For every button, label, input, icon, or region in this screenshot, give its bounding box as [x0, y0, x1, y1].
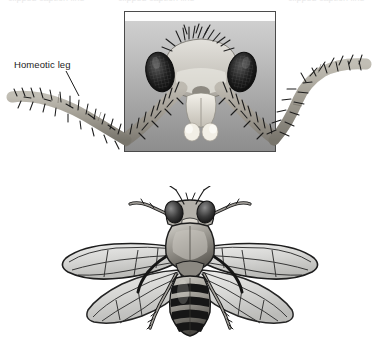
leader-line-homeotic-leg [66, 71, 79, 96]
homeotic-leg-left-distal [12, 88, 126, 149]
annotation-label-homeotic-leg: Homeotic leg [14, 59, 71, 70]
homeotic-legs-outside-panel [0, 0, 376, 180]
bithorax-fly-artwork [52, 186, 328, 342]
bithorax-fly-panel [52, 186, 328, 342]
fly-abdomen [170, 276, 211, 336]
figure-root: clipped caption line clipped caption lin… [0, 0, 376, 344]
homeotic-leg-right-distal [267, 55, 366, 140]
